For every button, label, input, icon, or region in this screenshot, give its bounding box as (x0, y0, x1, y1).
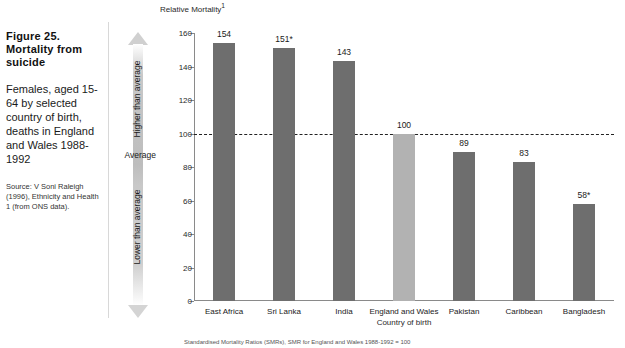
y-axis-tick-label: 160 (158, 29, 192, 38)
y-axis-tick-label: 0 (158, 297, 192, 306)
bar (393, 134, 415, 302)
y-axis-tick-label: 100 (158, 129, 192, 138)
bar-value-label: 100 (374, 120, 434, 130)
y-axis-title-text: Relative Mortality (160, 5, 221, 14)
bar-group: 58*Bangladesh (554, 33, 614, 301)
bar (213, 43, 235, 301)
average-scale-arrow: Higher than average Average Lower than a… (120, 32, 156, 318)
arrow-head-down-icon (128, 305, 148, 318)
x-axis-category-label: Bangladesh (548, 307, 620, 316)
y-axis-tick-label: 120 (158, 96, 192, 105)
caption-panel: Figure 25. Mortality from suicide Female… (0, 0, 108, 348)
figure-source: Source: V Soni Raleigh (1996), Ethnicity… (6, 182, 102, 212)
bar-value-label: 154 (194, 29, 254, 39)
y-axis-title: Relative Mortality1 (160, 2, 225, 14)
y-axis-tick-label: 140 (158, 62, 192, 71)
bar-value-label: 143 (314, 47, 374, 57)
panel-divider (108, 22, 109, 318)
y-axis-tick-label: 40 (158, 230, 192, 239)
bar-group: 89Pakistan (434, 33, 494, 301)
bar-group: 83Caribbean (494, 33, 554, 301)
bar-value-label: 83 (494, 148, 554, 158)
y-axis-tick-label: 60 (158, 196, 192, 205)
bar (573, 204, 595, 301)
average-label: Average (96, 150, 156, 160)
bar-group: 143India (314, 33, 374, 301)
bar-group: 154East Africa (194, 33, 254, 301)
y-axis-tick-label: 20 (158, 263, 192, 272)
bar-value-label: 89 (434, 138, 494, 148)
bar (333, 61, 355, 301)
y-axis-tick-label: 80 (158, 163, 192, 172)
bar-group: 100England and Wales (374, 33, 434, 301)
plot-area: 020406080100120140160 154East Africa151*… (194, 33, 614, 301)
higher-than-average-label: Higher than average (132, 44, 142, 154)
y-axis-title-superscript: 1 (221, 2, 225, 9)
bar (513, 162, 535, 301)
x-axis-title: Country of birth (194, 318, 614, 327)
figure-subtitle: Females, aged 15-64 by selected country … (6, 82, 102, 166)
bar-chart: Relative Mortality1 02040608010012014016… (156, 0, 625, 348)
figure-title: Figure 25. Mortality from suicide (6, 30, 102, 69)
bar-group: 151*Sri Lanka (254, 33, 314, 301)
bar (273, 48, 295, 301)
bar-value-label: 58* (554, 190, 614, 200)
bar-value-label: 151* (254, 34, 314, 44)
lower-than-average-label: Lower than average (132, 172, 142, 282)
chart-footnote: Standardised Mortality Ratios (SMRs), SM… (184, 339, 624, 345)
bar (453, 152, 475, 301)
